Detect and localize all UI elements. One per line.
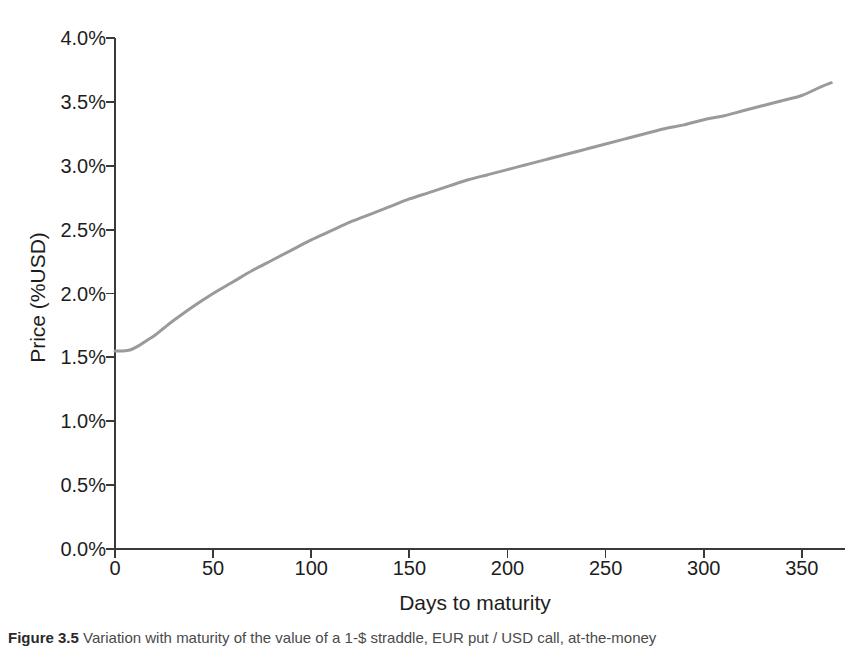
y-tick-label: 4.0% — [10, 28, 106, 48]
line-chart — [0, 0, 854, 600]
x-tick-label: 100 — [271, 558, 351, 578]
series-line — [115, 83, 831, 351]
y-tick-label: 0.5% — [10, 475, 106, 495]
y-axis-tick-labels: 0.0%0.5%1.0%1.5%2.0%2.5%3.0%3.5%4.0% — [0, 0, 106, 600]
x-tick-label: 50 — [173, 558, 253, 578]
x-tick-label: 300 — [664, 558, 744, 578]
x-tick-label: 350 — [762, 558, 842, 578]
caption-text: Variation with maturity of the value of … — [83, 629, 656, 646]
y-tick-label: 2.0% — [10, 284, 106, 304]
y-tick-label: 1.5% — [10, 347, 106, 367]
y-tick-label: 3.0% — [10, 156, 106, 176]
y-axis-title: Price (%USD) — [27, 168, 48, 428]
y-tick-label: 1.0% — [10, 411, 106, 431]
x-axis-title: Days to maturity — [115, 592, 835, 613]
chart-axes — [106, 38, 845, 558]
y-tick-label: 2.5% — [10, 220, 106, 240]
y-tick-label: 3.5% — [10, 92, 106, 112]
chart-series — [115, 83, 831, 351]
x-tick-label: 0 — [75, 558, 155, 578]
x-tick-label: 250 — [566, 558, 646, 578]
x-axis-tick-labels: 050100150200250300350 — [0, 558, 854, 584]
x-tick-label: 200 — [467, 558, 547, 578]
caption-prefix: Figure 3.5 — [8, 629, 79, 646]
figure-caption: Figure 3.5 Variation with maturity of th… — [8, 628, 848, 647]
x-tick-label: 150 — [369, 558, 449, 578]
chart-plot-area: 0.0%0.5%1.0%1.5%2.0%2.5%3.0%3.5%4.0% 050… — [0, 0, 854, 600]
y-tick-label: 0.0% — [10, 539, 106, 559]
